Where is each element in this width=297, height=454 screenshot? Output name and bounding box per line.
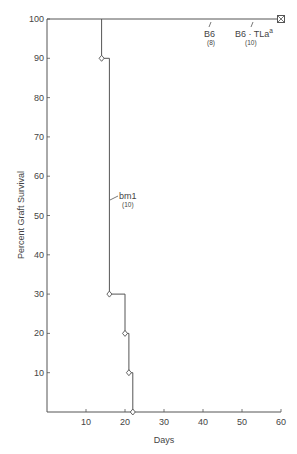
x-tick-label: 30 xyxy=(159,417,169,427)
bm1-diamond-marker xyxy=(123,330,128,336)
y-tick-label: 10 xyxy=(34,368,44,378)
b6-n: (8) xyxy=(207,39,215,47)
y-tick-label: 60 xyxy=(34,171,44,181)
b6-label: B6 xyxy=(204,29,215,39)
y-tick-label: 50 xyxy=(34,211,44,221)
bm1-leader xyxy=(110,196,118,200)
x-tick-label: 10 xyxy=(81,417,91,427)
axes: 102030405060708090100102030405060 xyxy=(29,14,286,427)
bm1-survival-curve xyxy=(102,19,133,412)
bm1-diamond-marker xyxy=(130,409,135,415)
x-tick-label: 60 xyxy=(276,417,286,427)
y-tick-label: 20 xyxy=(34,328,44,338)
b6-leader xyxy=(209,22,211,27)
y-tick-label: 90 xyxy=(34,53,44,63)
series xyxy=(47,16,285,416)
y-tick-label: 70 xyxy=(34,132,44,142)
bm1-diamond-marker xyxy=(107,291,112,297)
x-tick-label: 20 xyxy=(120,417,130,427)
x-tick-label: 40 xyxy=(198,417,208,427)
bm1-diamond-marker xyxy=(99,55,104,61)
b6tla-n: (10) xyxy=(245,39,257,47)
y-tick-label: 30 xyxy=(34,289,44,299)
x-axis-label: Days xyxy=(154,435,175,445)
y-axis-label: Percent Graft Survival xyxy=(16,171,26,259)
annotations: Percent Graft Survival Days B6 (8) B6 · … xyxy=(16,22,273,445)
b6tla-leader xyxy=(251,22,253,27)
y-tick-label: 40 xyxy=(34,250,44,260)
bm1-label: bm1 xyxy=(119,191,137,201)
b6tla-label: B6 · TLaa xyxy=(235,27,273,39)
x-tick-label: 50 xyxy=(237,417,247,427)
bm1-n: (10) xyxy=(122,201,134,209)
bm1-diamond-marker xyxy=(126,370,131,376)
y-tick-label: 100 xyxy=(29,14,44,24)
survival-chart: 102030405060708090100102030405060 Percen… xyxy=(0,0,297,454)
y-tick-label: 80 xyxy=(34,93,44,103)
